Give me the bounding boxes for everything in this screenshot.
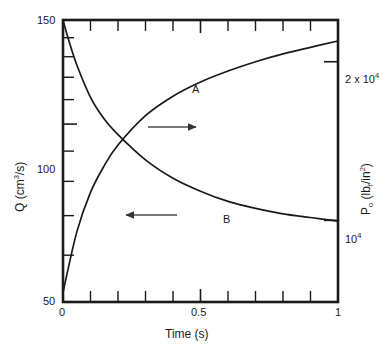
y-left-ticklabel-100: 100 (37, 163, 55, 175)
plot-frame (63, 20, 338, 302)
y-axis-right-title-mid: (lb (359, 186, 373, 203)
y-axis-left-title-prefix: Q (cm (13, 179, 27, 212)
y-right-ticklabel-1e4-exponent: 4 (357, 231, 361, 240)
y-axis-right-title-sub2: f (366, 184, 375, 186)
y-axis-right-title-exponent: 2 (358, 167, 367, 171)
y-axis-left-title: Q (cm3/s) (12, 162, 27, 212)
y-left-ticklabel-150: 150 (37, 14, 55, 26)
y-axis-left-ticks (63, 38, 77, 255)
curve-b-label: B (223, 213, 230, 225)
y-right-ticklabel-1e4: 104 (345, 231, 361, 245)
y-right-ticklabel-2e4-exponent: 4 (375, 71, 379, 80)
y-axis-right-title-prefix: P (359, 207, 373, 215)
x-ticklabel-1: 1 (335, 306, 341, 318)
y-axis-right-title-sub: o (366, 203, 375, 207)
y-axis-left-title-suffix: /s) (13, 162, 27, 175)
curve-a-path (63, 41, 338, 292)
chart-svg (0, 0, 385, 349)
y-right-ticklabel-1e4-base: 10 (345, 233, 357, 245)
x-ticklabel-0: 0 (59, 306, 65, 318)
y-right-ticklabel-2e4: 2 x 104 (345, 71, 379, 85)
x-axis-bottom-ticks (91, 289, 311, 302)
x-axis-title: Time (s) (165, 327, 209, 341)
curve-a-label: A (192, 83, 199, 95)
x-ticklabel-0-5: 0.5 (191, 306, 206, 318)
y-right-ticklabel-2e4-base: 2 x 10 (345, 73, 375, 85)
y-axis-right-title-mid2: /in (359, 171, 373, 184)
x-axis-top-ticks (91, 20, 311, 33)
y-axis-right-title: Po (lbf/in2) (358, 163, 375, 215)
chart-figure: 150 100 50 2 x 104 104 0 0.5 1 Time (s) … (0, 0, 385, 349)
y-left-ticklabel-50: 50 (43, 295, 55, 307)
y-axis-right-title-suffix: ) (359, 163, 373, 167)
y-axis-right-ticks (324, 62, 338, 221)
y-axis-left-title-exponent: 3 (12, 175, 21, 179)
